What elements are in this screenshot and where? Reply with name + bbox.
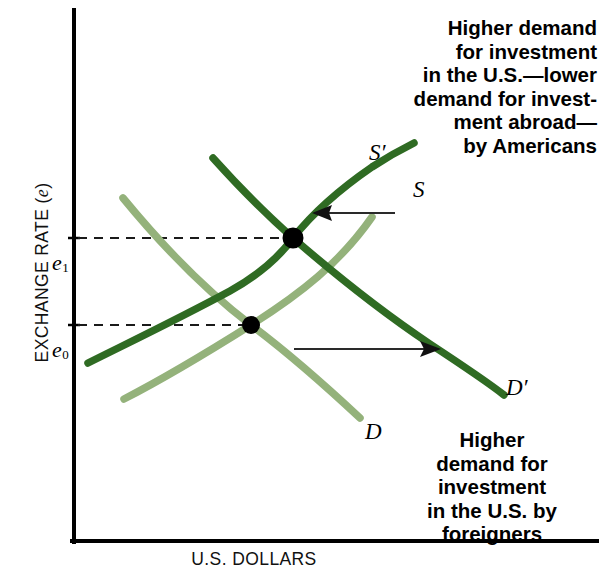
top-annotation-line-6: by Americans (372, 134, 597, 158)
tick-label-e1-sub: 1 (62, 260, 69, 275)
tick-label-e1-base: e (52, 250, 62, 275)
equilibrium-dot-e0 (242, 316, 260, 334)
top-annotation-line-1: Higher demand (372, 16, 597, 40)
curve-label-D-prime: D′ (506, 375, 528, 401)
bottom-annotation-line-2: demand for (389, 452, 595, 476)
tick-label-e0-base: e (52, 337, 62, 362)
x-axis-title-text: U.S. DOLLARS (191, 549, 316, 569)
bottom-annotation: Higher demand for investment in the U.S.… (389, 428, 595, 546)
top-annotation-line-5: ment abroad— (372, 110, 597, 134)
curve-D (123, 198, 360, 418)
top-annotation-line-4: demand for invest- (372, 87, 597, 111)
bottom-annotation-line-3: investment (389, 475, 595, 499)
bottom-annotation-line-1: Higher (389, 428, 595, 452)
curves-group (88, 143, 504, 418)
curve-label-D: D (365, 419, 382, 445)
y-axis-title-variable: e (32, 189, 52, 197)
top-annotation-line-2: for investment (372, 40, 597, 64)
tick-label-e1: e1 (30, 224, 69, 302)
tick-label-e0: e0 (30, 311, 69, 389)
top-annotation-line-3: in the U.S.—lower (372, 63, 597, 87)
x-axis-title: U.S. DOLLARS (74, 549, 434, 570)
bottom-annotation-line-4: in the U.S. by (389, 499, 595, 523)
curve-label-S: S (413, 177, 425, 203)
equilibrium-dot-e1 (283, 228, 304, 249)
tick-label-e0-sub: 0 (62, 347, 69, 362)
y-axis-title-close: ) (32, 183, 52, 189)
diagram-canvas: EXCHANGE RATE (e) U.S. DOLLARS e1 e0 S′ … (0, 0, 599, 577)
top-annotation: Higher demand for investment in the U.S.… (372, 16, 597, 157)
bottom-annotation-line-5: foreigners (389, 522, 595, 546)
